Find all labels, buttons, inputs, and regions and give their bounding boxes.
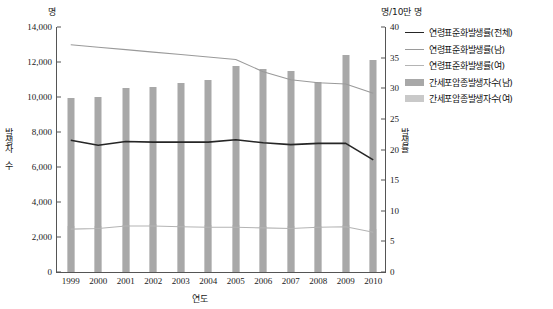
left-axis-unit-label: 명 bbox=[48, 5, 56, 18]
legend-item-label: 연령표준화발생률(전체) bbox=[429, 26, 512, 39]
legend-item-label: 연령표준화발생률(여) bbox=[429, 59, 505, 72]
legend-line-swatch-icon bbox=[405, 65, 424, 66]
plot-area: 02,0004,0006,0008,00010,00012,00014,000 … bbox=[56, 27, 386, 272]
y-left-tick-label: 6,000 bbox=[32, 162, 57, 172]
x-tick-label-2009: 2009 bbox=[337, 276, 355, 286]
y-left-tick-label: 8,000 bbox=[32, 127, 57, 137]
legend-line-swatch-icon bbox=[405, 49, 424, 50]
y-right-tick-label: 15 bbox=[385, 175, 399, 185]
legend-bar-swatch-icon bbox=[405, 79, 424, 86]
line-series bbox=[71, 45, 374, 93]
x-tick-label-2006: 2006 bbox=[254, 276, 272, 286]
legend-bar-swatch-icon bbox=[405, 95, 424, 102]
y-right-tick-label: 30 bbox=[385, 83, 399, 93]
y-left-tick-label: 12,000 bbox=[27, 57, 57, 67]
y-right-tick-label: 40 bbox=[385, 22, 399, 32]
x-tick-label-2008: 2008 bbox=[309, 276, 327, 286]
legend-item-2[interactable]: 연령표준화발생률(여) bbox=[405, 59, 512, 72]
y-axis-right-title: 발생률 bbox=[398, 128, 411, 152]
legend-item-label: 간세포암종발생자수(여) bbox=[429, 92, 512, 105]
legend-item-label: 연령표준화발생률(남) bbox=[429, 43, 505, 56]
legend-item-4[interactable]: 간세포암종발생자수(여) bbox=[405, 92, 512, 105]
x-tick-label-2002: 2002 bbox=[144, 276, 162, 286]
line-series bbox=[71, 140, 374, 160]
y-axis-left-title: 발생자 수 bbox=[2, 128, 15, 169]
right-axis-unit-label: 명/10만 명 bbox=[381, 5, 422, 18]
y-left-tick-label: 0 bbox=[48, 267, 58, 277]
y-right-tick-label: 25 bbox=[385, 114, 399, 124]
legend-line-swatch-icon bbox=[405, 32, 424, 33]
legend-item-0[interactable]: 연령표준화발생률(전체) bbox=[405, 26, 512, 39]
y-right-tick-label: 10 bbox=[385, 206, 399, 216]
y-right-tick-label: 35 bbox=[385, 53, 399, 63]
x-tick-label-2010: 2010 bbox=[364, 276, 382, 286]
x-axis-title: 연도 bbox=[192, 292, 208, 305]
x-tick-label-1999: 1999 bbox=[62, 276, 80, 286]
x-tick-label-2000: 2000 bbox=[89, 276, 107, 286]
line-series-layer bbox=[57, 27, 387, 272]
y-left-tick-label: 2,000 bbox=[32, 232, 57, 242]
y-right-tick-label: 20 bbox=[385, 145, 399, 155]
x-tick-label-2001: 2001 bbox=[117, 276, 135, 286]
y-left-tick-label: 14,000 bbox=[27, 22, 57, 32]
x-tick-label-2004: 2004 bbox=[199, 276, 217, 286]
legend-item-label: 간세포암종발생자수(남) bbox=[429, 76, 512, 89]
y-left-tick-label: 4,000 bbox=[32, 197, 57, 207]
y-left-tick-label: 10,000 bbox=[27, 92, 57, 102]
line-series bbox=[71, 226, 374, 232]
x-tick-label-2007: 2007 bbox=[282, 276, 300, 286]
x-tick-label-2005: 2005 bbox=[227, 276, 245, 286]
legend-item-1[interactable]: 연령표준화발생률(남) bbox=[405, 43, 512, 56]
chart-legend: 연령표준화발생률(전체)연령표준화발생률(남)연령표준화발생률(여)간세포암종발… bbox=[405, 26, 512, 105]
chart-figure: 명 명/10만 명 발생자 수 발생률 연도 02,0004,0006,0008… bbox=[0, 0, 553, 309]
legend-item-3[interactable]: 간세포암종발생자수(남) bbox=[405, 76, 512, 89]
x-tick-label-2003: 2003 bbox=[172, 276, 190, 286]
